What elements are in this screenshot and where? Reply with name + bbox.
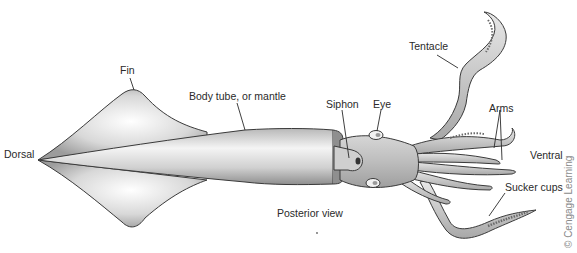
view-caption: Posterior view <box>277 207 343 219</box>
copyright-credit: © Cengage Learning <box>563 156 574 248</box>
label-eye: Eye <box>373 98 391 110</box>
arm-1 <box>410 128 515 154</box>
label-tentacle: Tentacle <box>409 40 448 52</box>
label-dorsal: Dorsal <box>4 148 34 160</box>
squid-diagram: Fin Body tube, or mantle Dorsal Siphon E… <box>0 0 577 253</box>
leader-fin <box>130 78 134 90</box>
label-sucker-cups: Sucker cups <box>505 181 563 193</box>
leader-body <box>237 103 245 130</box>
arm-2 <box>412 153 500 164</box>
label-arms: Arms <box>489 102 514 114</box>
leader-eye <box>377 110 381 131</box>
leader-tentacle <box>437 55 458 68</box>
label-body-tube: Body tube, or mantle <box>189 90 286 102</box>
label-siphon: Siphon <box>326 98 359 110</box>
leader-sucker <box>489 193 505 216</box>
leader-arms-2 <box>500 110 502 160</box>
label-ventral: Ventral <box>530 149 563 161</box>
label-fin: Fin <box>120 64 135 76</box>
tentacle-upper <box>430 12 506 140</box>
